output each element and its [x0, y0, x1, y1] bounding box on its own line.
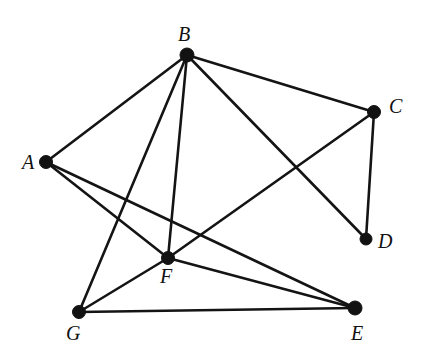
graph-vertex-a: [40, 156, 53, 169]
vertex-label-c: C: [389, 96, 402, 116]
graph-vertex-f: [162, 252, 175, 265]
vertex-label-g: G: [66, 323, 80, 343]
vertex-label-b: B: [178, 24, 190, 44]
graph-vertex-e: [348, 301, 362, 315]
edge-layer: [46, 55, 374, 312]
vertex-label-a: A: [22, 152, 34, 172]
graph-canvas: [0, 0, 421, 362]
graph-edge-g-e: [79, 308, 355, 312]
graph-edge-c-f: [168, 112, 374, 258]
graph-edge-c-d: [366, 112, 374, 239]
graph-diagram: ABCDEFG: [0, 0, 421, 362]
graph-vertex-c: [368, 106, 381, 119]
graph-vertex-d: [360, 233, 372, 245]
vertex-label-e: E: [351, 323, 363, 343]
graph-edge-f-g: [79, 258, 168, 312]
graph-vertex-g: [73, 306, 86, 319]
graph-vertex-b: [180, 48, 194, 62]
graph-edge-f-e: [168, 258, 355, 308]
vertex-label-f: F: [160, 266, 172, 286]
vertex-label-d: D: [378, 231, 392, 251]
